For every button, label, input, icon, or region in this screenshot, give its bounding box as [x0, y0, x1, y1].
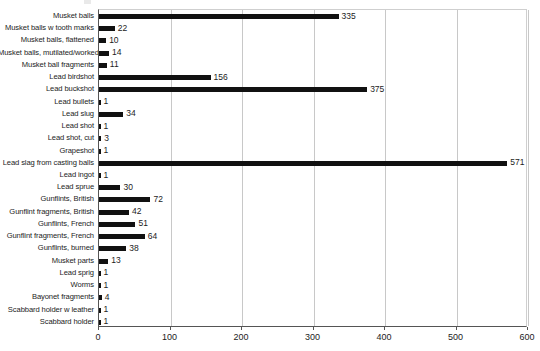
- bar: [99, 124, 101, 129]
- tick-mark-0: [98, 327, 99, 330]
- category-axis-labels: Musket ballsMusket balls w tooth marksMu…: [0, 9, 94, 327]
- bar-value-label: 1: [104, 266, 109, 279]
- bar: [99, 100, 101, 105]
- bar-value-label: 1: [104, 279, 109, 292]
- bar: [99, 136, 101, 141]
- bar-value-label: 1: [104, 303, 109, 316]
- bar: [99, 161, 507, 166]
- bar: [99, 283, 101, 288]
- bar-value-label: 3: [104, 132, 109, 145]
- tick-label-200: 200: [233, 332, 248, 342]
- bar: [99, 112, 123, 117]
- bar: [99, 246, 126, 251]
- bar: [99, 51, 109, 56]
- tick-mark-100: [170, 327, 171, 330]
- bar-value-label: 156: [214, 71, 228, 84]
- bar-value-label: 1: [104, 169, 109, 182]
- tick-mark-400: [384, 327, 385, 330]
- cropped-title-artifact: [84, 0, 91, 4]
- tick-label-600: 600: [519, 332, 534, 342]
- bar-value-label: 1: [104, 315, 109, 328]
- bar-value-label: 375: [370, 83, 384, 96]
- bar: [99, 26, 115, 31]
- bar: [99, 87, 367, 92]
- bar-value-label: 34: [126, 107, 135, 120]
- bar-value-label: 1: [104, 120, 109, 133]
- bar: [99, 271, 101, 276]
- bar: [99, 295, 102, 300]
- bar-value-label: 10: [109, 34, 118, 47]
- bar-value-label: 51: [138, 217, 147, 230]
- bar: [99, 222, 135, 227]
- bar: [99, 173, 101, 178]
- bar-value-label: 14: [112, 46, 121, 59]
- bar-value-label: 4: [105, 291, 110, 304]
- bar: [99, 14, 339, 19]
- tick-mark-300: [313, 327, 314, 330]
- bar-chart: Musket ballsMusket balls w tooth marksMu…: [0, 0, 540, 351]
- bar: [99, 38, 106, 43]
- bar-value-label: 335: [342, 10, 356, 23]
- bar: [99, 320, 101, 325]
- bar-value-label: 42: [132, 205, 141, 218]
- bar: [99, 197, 150, 202]
- bar-value-label: 72: [153, 193, 162, 206]
- value-axis-ticks: 0100200300400500600: [98, 330, 527, 346]
- bar-value-label: 1: [104, 144, 109, 157]
- tick-mark-500: [456, 327, 457, 330]
- tick-label-400: 400: [376, 332, 391, 342]
- bar: [99, 185, 120, 190]
- bar: [99, 63, 107, 68]
- tick-mark-200: [241, 327, 242, 330]
- bar-value-label: 11: [110, 58, 119, 71]
- tick-mark-600: [527, 327, 528, 330]
- bar-value-label: 38: [129, 242, 138, 255]
- tick-label-0: 0: [95, 332, 100, 342]
- bar-value-label: 1: [104, 95, 109, 108]
- bar: [99, 259, 108, 264]
- bar: [99, 210, 129, 215]
- category-label: Scabbard holder: [0, 315, 94, 328]
- bar-value-label: 30: [123, 181, 132, 194]
- tick-label-500: 500: [448, 332, 463, 342]
- bar-value-label: 571: [510, 156, 524, 169]
- gridline-600: [528, 10, 529, 326]
- bar: [99, 75, 211, 80]
- plot-area: 3352210141115637513413157113072425164381…: [98, 9, 527, 327]
- tick-label-100: 100: [162, 332, 177, 342]
- tick-label-300: 300: [305, 332, 320, 342]
- bar: [99, 234, 145, 239]
- bar: [99, 308, 101, 313]
- bar-value-label: 64: [148, 230, 157, 243]
- bar-value-label: 22: [118, 22, 127, 35]
- bar: [99, 149, 101, 154]
- bar-value-label: 13: [111, 254, 120, 267]
